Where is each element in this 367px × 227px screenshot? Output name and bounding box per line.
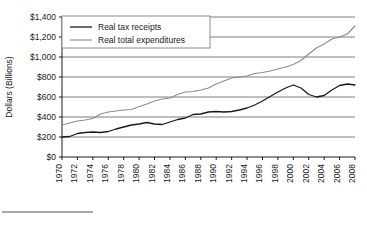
x-tick-label: 1980 <box>131 164 141 183</box>
y-tick-label: $1,200 <box>30 32 56 42</box>
line-chart: $0$200$400$600$800$1,000$1,200$1,400 197… <box>0 0 367 227</box>
x-tick-label: 1972 <box>69 164 79 183</box>
x-tick-label: 1976 <box>100 164 110 183</box>
y-tick-label: $0 <box>47 152 57 162</box>
x-tick-label: 1998 <box>270 164 280 183</box>
x-tick-label: 2004 <box>316 164 326 183</box>
x-tick-label: 2006 <box>332 164 342 183</box>
x-tick-labels-group: 1970197219741976197819801982198419861988… <box>54 164 357 183</box>
series-line-0 <box>62 84 355 137</box>
chart-figure: $0$200$400$600$800$1,000$1,200$1,400 197… <box>0 0 367 227</box>
x-tick-label: 1994 <box>239 164 249 183</box>
y-axis-title: Dollars (Billions) <box>4 56 14 118</box>
legend-label-0: Real tax receipts <box>98 22 161 32</box>
x-tick-label: 1982 <box>147 164 157 183</box>
x-tick-label: 1992 <box>224 164 234 183</box>
chart-legend: Real tax receiptsReal total expenditures <box>62 16 210 48</box>
x-tick-label: 1974 <box>85 164 95 183</box>
x-tick-label: 1978 <box>116 164 126 183</box>
x-tick-label: 1984 <box>162 164 172 183</box>
x-tick-label: 2008 <box>347 164 357 183</box>
y-tick-label: $400 <box>37 112 56 122</box>
x-tick-label: 1970 <box>54 164 64 183</box>
y-tick-label: $600 <box>37 92 56 102</box>
x-tick-label: 1996 <box>254 164 264 183</box>
x-tick-label: 2000 <box>285 164 295 183</box>
y-tick-label: $1,000 <box>30 52 56 62</box>
x-tick-label: 1988 <box>193 164 203 183</box>
x-tick-label: 2002 <box>301 164 311 183</box>
y-tick-labels-group: $0$200$400$600$800$1,000$1,200$1,400 <box>30 12 56 162</box>
y-tick-label: $800 <box>37 72 56 82</box>
x-tick-label: 1990 <box>208 164 218 183</box>
y-tick-label: $1,400 <box>30 12 56 22</box>
x-tick-label: 1986 <box>177 164 187 183</box>
legend-label-1: Real total expenditures <box>98 35 185 45</box>
y-tick-label: $200 <box>37 132 56 142</box>
